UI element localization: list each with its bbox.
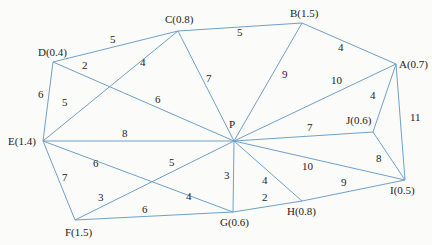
edge-weight-B-P: 9 xyxy=(282,68,288,80)
edge-weight-J-P: 7 xyxy=(307,121,313,133)
node-label-E: E(1.4) xyxy=(8,135,36,148)
edge-P-G xyxy=(233,141,234,212)
node-label-C: C(0.8) xyxy=(165,13,194,26)
node-label-H: H(0.8) xyxy=(287,205,316,218)
graph-diagram: 554679104117881043297645266435A(0.7)B(1.… xyxy=(0,0,432,245)
node-label-A: A(0.7) xyxy=(399,58,428,71)
edge-weight-G-H: 2 xyxy=(262,191,268,203)
node-label-J: J(0.6) xyxy=(346,114,372,127)
edge-weight-F-P-1: 5 xyxy=(169,156,175,168)
edge-weight-C-P: 7 xyxy=(206,72,212,84)
edge-weight-D-E: 6 xyxy=(38,88,44,100)
node-label-G: G(0.6) xyxy=(220,216,249,229)
edge-weight-E-G-1: 4 xyxy=(186,190,192,202)
edge-A-J xyxy=(373,64,396,132)
edge-weight-E-F: 7 xyxy=(62,171,68,183)
node-label-P: P xyxy=(229,118,235,130)
edge-weight-H-I: 9 xyxy=(341,176,347,188)
edge-weight-A-P: 10 xyxy=(331,74,343,86)
graph-svg: 554679104117881043297645266435A(0.7)B(1.… xyxy=(0,0,432,245)
edge-A-I xyxy=(396,64,405,180)
edge-B-P xyxy=(234,23,302,141)
edge-weight-F-P-0: 3 xyxy=(98,191,104,203)
edge-weight-C-E-0: 4 xyxy=(140,56,146,68)
edge-weight-A-J: 4 xyxy=(370,89,376,101)
node-label-D: D(0.4) xyxy=(38,46,67,59)
edge-weight-B-A: 4 xyxy=(338,41,344,53)
edge-weight-P-I: 10 xyxy=(302,160,314,172)
edge-weight-P-H: 4 xyxy=(262,174,268,186)
edge-E-G xyxy=(43,141,233,212)
edge-E-F xyxy=(43,141,75,220)
edge-C-P xyxy=(178,31,234,141)
edge-weight-D-P-1: 6 xyxy=(155,93,161,105)
edge-F-P xyxy=(75,141,234,220)
edge-F-G xyxy=(75,212,233,220)
node-label-B: B(1.5) xyxy=(290,7,319,20)
edge-weight-D-P-0: 2 xyxy=(82,59,88,71)
edge-J-P xyxy=(234,132,373,141)
edge-weight-C-B: 5 xyxy=(237,26,243,38)
node-label-I: I(0.5) xyxy=(390,184,415,197)
edge-P-H xyxy=(234,141,302,201)
edge-weight-F-G: 6 xyxy=(142,203,148,215)
edge-weight-P-G: 3 xyxy=(224,169,230,181)
edge-weight-D-C: 5 xyxy=(110,33,116,45)
edge-A-P xyxy=(234,64,396,141)
node-label-F: F(1.5) xyxy=(65,226,93,239)
edge-weight-C-E-1: 5 xyxy=(62,96,68,108)
edge-weight-J-I: 8 xyxy=(376,152,382,164)
edge-weight-A-I: 11 xyxy=(410,111,421,123)
edge-B-A xyxy=(302,23,396,64)
edge-weight-E-G-0: 6 xyxy=(93,157,99,169)
edge-weight-E-P: 8 xyxy=(122,127,128,139)
edge-D-E xyxy=(43,62,53,141)
